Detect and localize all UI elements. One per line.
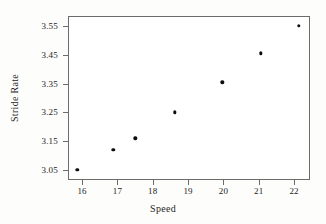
y-axis-tick-label: 3.15 bbox=[41, 136, 58, 146]
x-axis-tick bbox=[153, 180, 154, 185]
y-axis-tick-label: 3.35 bbox=[41, 79, 58, 89]
y-axis-tick bbox=[63, 84, 68, 85]
x-axis-tick bbox=[294, 180, 295, 185]
y-axis-tick-label: 3.05 bbox=[41, 165, 58, 175]
x-axis-tick-label: 16 bbox=[77, 186, 86, 196]
x-axis-tick-label: 20 bbox=[219, 186, 228, 196]
x-axis-tick bbox=[82, 180, 83, 185]
plot-frame bbox=[68, 16, 310, 180]
x-axis-tick-label: 22 bbox=[289, 186, 298, 196]
x-axis-title: Speed bbox=[0, 203, 326, 214]
x-axis-tick bbox=[259, 180, 260, 185]
x-axis-tick bbox=[117, 180, 118, 185]
x-axis-tick bbox=[188, 180, 189, 185]
x-axis-tick-label: 17 bbox=[113, 186, 122, 196]
y-axis-tick bbox=[63, 55, 68, 56]
x-axis-tick-label: 19 bbox=[183, 186, 192, 196]
x-axis-tick-label: 21 bbox=[254, 186, 263, 196]
y-axis-tick bbox=[63, 112, 68, 113]
y-axis-tick bbox=[63, 141, 68, 142]
x-axis-tick-label: 18 bbox=[148, 186, 157, 196]
y-axis-title: Stride Rate bbox=[9, 74, 20, 122]
y-axis-tick-label: 3.45 bbox=[41, 50, 58, 60]
y-axis-tick bbox=[63, 26, 68, 27]
scatter-plot-figure: 161718192021223.053.153.253.353.453.55 S… bbox=[0, 0, 326, 224]
y-axis-tick-label: 3.55 bbox=[41, 21, 58, 31]
y-axis-tick bbox=[63, 170, 68, 171]
y-axis-tick-label: 3.25 bbox=[41, 107, 58, 117]
x-axis-tick bbox=[223, 180, 224, 185]
